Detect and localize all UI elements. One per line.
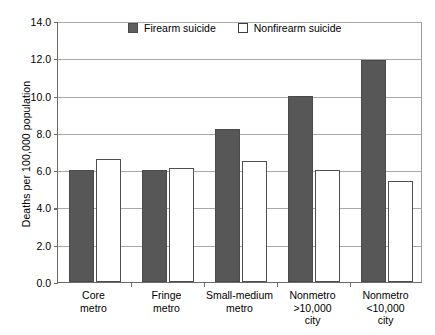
x-tick-mark [350, 282, 351, 287]
y-tick-label: 4.0 [7, 202, 51, 214]
x-tick-label: Nonmetro>10,000city [276, 289, 349, 327]
x-tick-label-line: metro [57, 302, 130, 315]
x-tick-label-line: Core [57, 289, 130, 302]
y-tick-mark [54, 59, 59, 60]
x-tick-label: Fringemetro [130, 289, 203, 314]
bar-nonfirearm [388, 181, 413, 282]
plot-right-border [421, 22, 422, 282]
x-tick-label-line: city [276, 314, 349, 327]
x-tick-label-line: Small-medium [203, 289, 276, 302]
y-tick-mark [54, 22, 59, 23]
y-tick-mark [54, 134, 59, 135]
x-tick-label: Coremetro [57, 289, 130, 314]
x-tick-mark [131, 282, 132, 287]
y-tick-mark [54, 208, 59, 209]
x-tick-mark [204, 282, 205, 287]
y-tick-label: 10.0 [7, 91, 51, 103]
bar-firearm [215, 129, 240, 282]
gridline [58, 22, 422, 23]
x-tick-label-line: city [349, 314, 422, 327]
bar-nonfirearm [96, 159, 121, 282]
x-tick-label-line: Nonmetro [276, 289, 349, 302]
y-axis-title: Deaths per 100,000 population [20, 44, 32, 264]
plot-area [57, 22, 422, 283]
x-tick-label-line: >10,000 [276, 302, 349, 315]
x-tick-label-line: <10,000 [349, 302, 422, 315]
x-tick-label-line: metro [130, 302, 203, 315]
y-tick-mark [54, 97, 59, 98]
y-tick-label: 14.0 [7, 16, 51, 28]
bar-firearm [288, 96, 313, 282]
x-tick-mark [277, 282, 278, 287]
y-tick-label: 12.0 [7, 53, 51, 65]
x-tick-label: Small-mediummetro [203, 289, 276, 314]
suicide-rate-bar-chart: Deaths per 100,000 population Firearm su… [0, 0, 435, 335]
y-tick-mark [54, 171, 59, 172]
bar-firearm [69, 170, 94, 282]
y-tick-label: 6.0 [7, 165, 51, 177]
y-tick-label: 8.0 [7, 128, 51, 140]
y-tick-mark [54, 246, 59, 247]
x-tick-label: Nonmetro<10,000city [349, 289, 422, 327]
bar-nonfirearm [169, 168, 194, 282]
bar-firearm [142, 170, 167, 282]
bar-firearm [361, 60, 386, 282]
bar-nonfirearm [315, 170, 340, 282]
bar-nonfirearm [242, 161, 267, 282]
y-tick-label: 0.0 [7, 277, 51, 289]
x-tick-label-line: Fringe [130, 289, 203, 302]
y-tick-label: 2.0 [7, 240, 51, 252]
y-tick-mark [54, 283, 59, 284]
x-tick-label-line: metro [203, 302, 276, 315]
x-tick-label-line: Nonmetro [349, 289, 422, 302]
